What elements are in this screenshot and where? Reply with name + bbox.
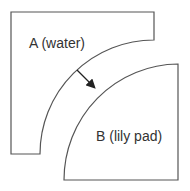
diagram-canvas: A (water) B (lily pad) xyxy=(0,0,190,191)
region-b-label: B (lily pad) xyxy=(96,128,162,144)
normal-arrow xyxy=(77,70,94,87)
region-b-shape xyxy=(64,64,178,180)
region-a-label: A (water) xyxy=(29,35,85,51)
